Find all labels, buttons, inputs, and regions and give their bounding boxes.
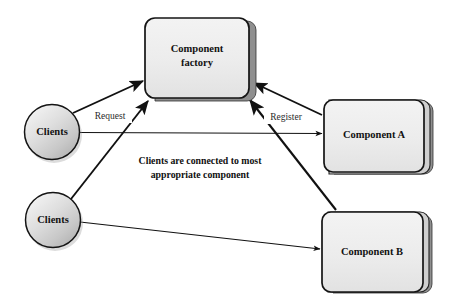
component-a-label: Component A bbox=[343, 129, 406, 140]
node-clients-bottom[interactable]: Clients bbox=[26, 193, 84, 252]
edge-clients-top-to-component-a[interactable] bbox=[80, 133, 322, 134]
edge-clients-top-to-factory[interactable] bbox=[73, 81, 143, 113]
node-component-b[interactable]: Component B bbox=[322, 212, 432, 293]
diagram-canvas: Component factory Component A Component … bbox=[0, 0, 452, 307]
clients-top-label: Clients bbox=[36, 126, 68, 137]
clients-bottom-label: Clients bbox=[37, 214, 69, 225]
edge-label-request-text: Request bbox=[95, 111, 126, 121]
component-b-label: Component B bbox=[341, 246, 403, 257]
edge-label-request: Request bbox=[88, 109, 132, 123]
caption-line1: Clients are connected to most bbox=[139, 155, 263, 166]
diagram-svg: Component factory Component A Component … bbox=[0, 0, 452, 307]
factory-label-line2: factory bbox=[181, 57, 214, 68]
edge-label-register-text: Register bbox=[270, 112, 302, 122]
edge-line bbox=[80, 133, 322, 134]
edge-line bbox=[73, 81, 143, 113]
edge-label-register: Register bbox=[264, 110, 309, 124]
node-component-a[interactable]: Component A bbox=[324, 100, 433, 174]
diagram-caption: Clients are connected to most appropriat… bbox=[118, 154, 283, 183]
node-component-factory[interactable]: Component factory bbox=[145, 18, 256, 101]
factory-label-line1: Component bbox=[171, 43, 224, 54]
edge-clients-bottom-to-component-b[interactable] bbox=[80, 222, 320, 249]
edge-line bbox=[80, 222, 320, 249]
caption-line2: appropriate component bbox=[151, 169, 250, 180]
edge-label-layer: Request Register bbox=[88, 109, 309, 124]
